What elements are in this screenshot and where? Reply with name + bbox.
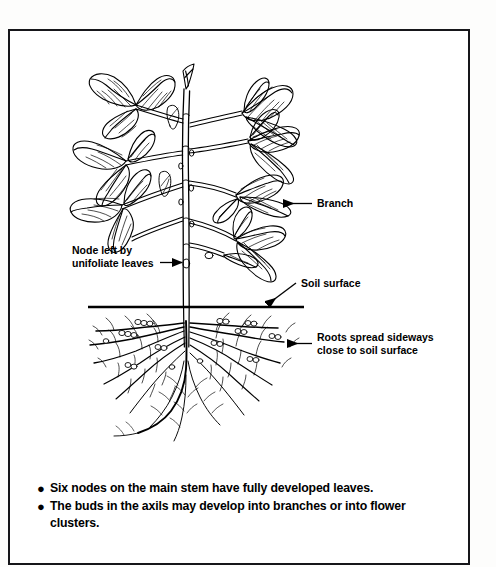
leaf-group-upper-left	[89, 74, 175, 139]
leader-soil	[268, 283, 296, 304]
callout-label-node-line1: Node left by	[72, 244, 132, 256]
callout-label-branch: Branch	[317, 197, 353, 209]
callout-label-soil-surface: Soil surface	[301, 277, 361, 289]
note-text: Six nodes on the main stem have fully de…	[50, 480, 373, 497]
list-item: ● The buds in the axils may develop into…	[37, 498, 437, 532]
bullet-icon: ●	[37, 480, 50, 497]
figure-frame: Branch Node left by unifoliate leaves So…	[8, 29, 470, 565]
leaf-group-right-lower	[233, 207, 286, 282]
callout-label-roots-line1: Roots spread sideways	[317, 331, 434, 343]
plant-shoot-group	[70, 64, 299, 347]
root-nodules	[103, 318, 281, 369]
list-item: ● Six nodes on the main stem have fully …	[37, 480, 437, 497]
bullet-icon: ●	[37, 498, 50, 515]
note-text-line1: The buds in the axils may develop into b…	[50, 499, 406, 513]
note-text-line2: clusters.	[50, 516, 99, 530]
leaf-group-left-lower	[70, 170, 151, 253]
callout-label-node-line2: unifoliate leaves	[72, 257, 154, 269]
axillary-buds	[179, 150, 194, 227]
notes-list: ● Six nodes on the main stem have fully …	[37, 480, 437, 533]
leaf-group-node5-right	[205, 252, 258, 267]
note-text: The buds in the axils may develop into b…	[50, 498, 406, 532]
figure-page: Branch Node left by unifoliate leaves So…	[0, 0, 496, 567]
stem-apex-bud	[183, 64, 194, 89]
root-system	[89, 313, 299, 441]
callout-label-roots-line2: close to soil surface	[317, 344, 418, 356]
